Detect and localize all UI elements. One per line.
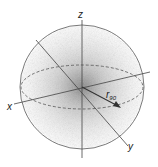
sphere-diagram: z x y r90: [0, 0, 158, 167]
y-axis-label: y: [127, 141, 134, 152]
z-axis-label: z: [77, 9, 83, 20]
x-axis-label: x: [6, 101, 13, 112]
radius-subscript: 90: [109, 95, 116, 101]
